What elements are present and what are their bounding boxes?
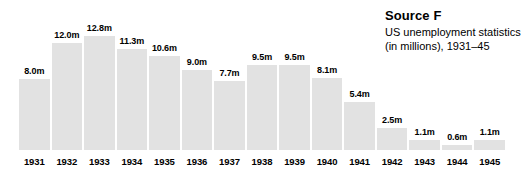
bar-column: 5.4m xyxy=(343,10,376,150)
bar-column: 11.3m xyxy=(116,10,149,150)
tick-label-1935: 1935 xyxy=(148,156,181,167)
bar xyxy=(344,102,375,150)
tick-label-1931: 1931 xyxy=(18,156,51,167)
tick-label-1937: 1937 xyxy=(213,156,246,167)
bar-value-label: 5.4m xyxy=(343,89,376,99)
bar-value-label: 2.5m xyxy=(376,115,409,125)
tick-label-1940: 1940 xyxy=(311,156,344,167)
bar-column: 9.5m xyxy=(278,10,311,150)
tick-label-1938: 1938 xyxy=(246,156,279,167)
bar xyxy=(182,70,213,150)
bar-value-label: 1.1m xyxy=(408,127,441,137)
tick-label-1939: 1939 xyxy=(278,156,311,167)
bar-column: 1.1m xyxy=(408,10,441,150)
bar-value-label: 0.6m xyxy=(441,132,474,142)
bar-chart-plot-area: 8.0m12.0m12.8m11.3m10.6m9.0m7.7m9.5m9.5m… xyxy=(18,10,506,150)
bar xyxy=(19,79,50,150)
bar-column: 1.1m xyxy=(473,10,506,150)
bar xyxy=(52,43,83,150)
bar xyxy=(214,81,245,150)
tick-label-1941: 1941 xyxy=(343,156,376,167)
bar xyxy=(442,145,473,150)
bar-column: 10.6m xyxy=(148,10,181,150)
bar xyxy=(84,36,115,150)
bar xyxy=(117,49,148,150)
bar xyxy=(409,140,440,150)
bar-value-label: 8.1m xyxy=(311,65,344,75)
bar-column: 12.0m xyxy=(51,10,84,150)
bar-value-label: 9.5m xyxy=(278,52,311,62)
tick-label-1942: 1942 xyxy=(376,156,409,167)
bar-value-label: 12.8m xyxy=(83,23,116,33)
tick-label-1943: 1943 xyxy=(408,156,441,167)
bar xyxy=(279,65,310,150)
bar-value-label: 8.0m xyxy=(18,66,51,76)
bar-value-label: 1.1m xyxy=(473,127,506,137)
bar-column: 9.5m xyxy=(246,10,279,150)
bar-column: 2.5m xyxy=(376,10,409,150)
bar-column: 8.0m xyxy=(18,10,51,150)
bar-column: 0.6m xyxy=(441,10,474,150)
tick-label-1934: 1934 xyxy=(116,156,149,167)
bar-value-label: 10.6m xyxy=(148,43,181,53)
bar-value-label: 7.7m xyxy=(213,68,246,78)
tick-label-1944: 1944 xyxy=(441,156,474,167)
bar-value-label: 11.3m xyxy=(116,36,149,46)
bar-value-label: 9.0m xyxy=(181,57,214,67)
bar xyxy=(474,140,505,150)
bar-column: 12.8m xyxy=(83,10,116,150)
bar xyxy=(247,65,278,150)
bar xyxy=(377,128,408,150)
bar-column: 9.0m xyxy=(181,10,214,150)
bar-value-label: 12.0m xyxy=(51,30,84,40)
bar xyxy=(149,56,180,150)
bar xyxy=(312,78,343,150)
chart-figure: Source F US unemployment statistics (in … xyxy=(0,0,532,182)
tick-label-1933: 1933 xyxy=(83,156,116,167)
tick-label-1932: 1932 xyxy=(51,156,84,167)
tick-label-1945: 1945 xyxy=(473,156,506,167)
tick-label-1936: 1936 xyxy=(181,156,214,167)
bar-column: 7.7m xyxy=(213,10,246,150)
bar-column: 8.1m xyxy=(311,10,344,150)
x-axis-tick-labels: 1931193219331934193519361937193819391940… xyxy=(18,156,506,172)
bar-value-label: 9.5m xyxy=(246,52,279,62)
